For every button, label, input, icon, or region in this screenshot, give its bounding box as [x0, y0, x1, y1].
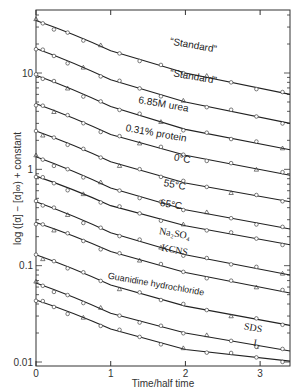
series-curve	[36, 21, 290, 95]
y-tick-label: 1	[27, 164, 33, 175]
curve-label: “Standard”	[169, 67, 217, 86]
y-tick-label: 10	[22, 68, 34, 79]
curve-label: SDS	[243, 321, 263, 335]
curve-label: 0°C	[173, 151, 191, 165]
data-markers	[34, 153, 285, 229]
series-curve	[36, 131, 290, 202]
data-markers	[34, 129, 284, 203]
curve-label: KCNS	[161, 242, 189, 257]
curve-label: Na₂SO₄	[158, 225, 191, 241]
curve-label: “Standard”	[169, 35, 217, 54]
curve-label: Guanidine hydrochloride	[107, 271, 205, 298]
y-tick-label: 0.01	[14, 357, 34, 368]
data-markers	[34, 17, 285, 94]
curve-label: 6.85M urea	[138, 94, 190, 114]
y-axis-label: log ([α] − [α]∞) + constant	[12, 94, 23, 284]
series-curve	[36, 48, 290, 123]
series-curve	[36, 283, 290, 351]
data-markers	[34, 47, 284, 125]
mutarotation-chart: 01230.010.1110“Standard”“Standard”6.85M …	[0, 0, 301, 392]
curve-label: 65°C	[159, 197, 183, 212]
curve-label: I₂	[253, 337, 262, 349]
x-axis-label: Time/half time	[36, 378, 290, 389]
curve-label: 0.31% protein	[125, 122, 188, 144]
data-markers	[34, 279, 285, 350]
